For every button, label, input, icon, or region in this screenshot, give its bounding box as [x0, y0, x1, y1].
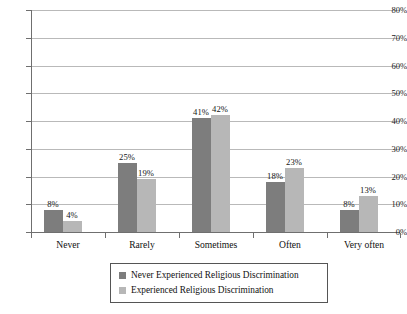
gridline-baseline — [31, 232, 400, 233]
y-tick-mark-70 — [26, 38, 31, 39]
x-tick-mark-1 — [105, 233, 106, 238]
bar-label-often-series-0: 18% — [262, 171, 288, 181]
y-tick-mark-30 — [26, 149, 31, 150]
y-tick-label-70: 70% — [379, 34, 407, 43]
y-tick-label-30: 30% — [379, 145, 407, 154]
bar-very-often-series-0 — [340, 210, 359, 232]
x-tick-mark-2 — [179, 233, 180, 238]
bar-often-series-0 — [266, 182, 285, 232]
y-tick-mark-10 — [26, 204, 31, 205]
y-tick-label-60: 60% — [379, 62, 407, 71]
bar-group-sometimes: 41% 42% — [179, 10, 253, 232]
x-tick-mark-3 — [253, 233, 254, 238]
bar-label-rarely-series-0: 25% — [114, 152, 140, 162]
bar-group-never: 8% 4% — [31, 10, 105, 232]
bar-group-rarely: 25% 19% — [105, 10, 179, 232]
y-tick-mark-80 — [26, 10, 31, 11]
y-tick-label-20: 20% — [379, 173, 407, 182]
y-tick-mark-20 — [26, 177, 31, 178]
bar-label-never-series-0: 8% — [40, 199, 66, 209]
plot-area: 8% 4% 25% 19% 41% 42% 18% 23% 8% 13% — [31, 10, 400, 232]
x-tick-label-rarely: Rarely — [105, 239, 179, 251]
y-tick-mark-50 — [26, 93, 31, 94]
bar-label-rarely-series-1: 19% — [133, 168, 159, 178]
y-tick-label-10: 10% — [379, 200, 407, 209]
x-tick-mark-4 — [327, 233, 328, 238]
y-tick-label-80: 80% — [379, 6, 407, 15]
bar-chart: 8% 4% 25% 19% 41% 42% 18% 23% 8% 13% — [0, 0, 407, 314]
legend-swatch-icon-series-0 — [119, 272, 126, 279]
legend-label-series-1: Experienced Religious Discrimination — [131, 285, 274, 296]
x-tick-mark-0 — [31, 233, 32, 238]
legend-item-series-0: Never Experienced Religious Discriminati… — [119, 268, 327, 283]
x-tick-label-never: Never — [31, 239, 105, 251]
bar-never-series-1 — [63, 221, 82, 232]
y-tick-mark-60 — [26, 66, 31, 67]
x-tick-label-often: Often — [253, 239, 327, 251]
legend-item-series-1: Experienced Religious Discrimination — [119, 283, 327, 298]
x-tick-label-very-often: Very often — [327, 239, 401, 251]
bar-label-very-often-series-0: 8% — [336, 199, 362, 209]
bar-label-never-series-1: 4% — [59, 210, 85, 220]
x-tick-label-sometimes: Sometimes — [179, 239, 253, 251]
chart-legend: Never Experienced Religious Discriminati… — [110, 263, 328, 303]
bar-label-very-often-series-1: 13% — [355, 185, 381, 195]
bar-label-sometimes-series-1: 42% — [207, 104, 233, 114]
y-tick-label-40: 40% — [379, 117, 407, 126]
bar-rarely-series-1 — [137, 179, 156, 232]
bar-sometimes-series-0 — [192, 118, 211, 232]
bar-sometimes-series-1 — [211, 115, 230, 232]
x-tick-mark-5 — [400, 233, 401, 238]
y-axis-line — [31, 10, 32, 233]
bar-label-often-series-1: 23% — [281, 157, 307, 167]
legend-label-series-0: Never Experienced Religious Discriminati… — [131, 270, 299, 281]
y-tick-mark-40 — [26, 121, 31, 122]
bar-group-often: 18% 23% — [253, 10, 327, 232]
legend-swatch-icon-series-1 — [119, 287, 126, 294]
y-tick-label-50: 50% — [379, 89, 407, 98]
y-tick-label-0: 0% — [379, 228, 407, 237]
